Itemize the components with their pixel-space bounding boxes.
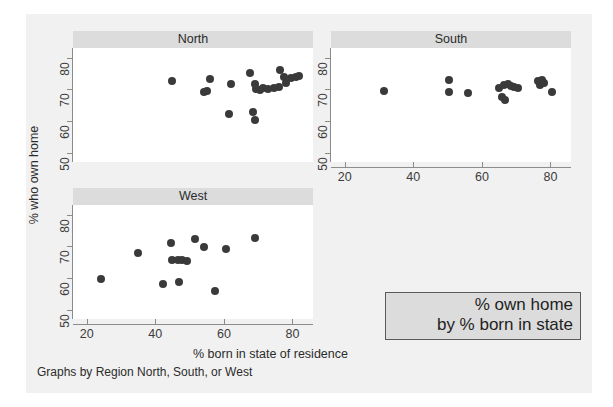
x-axis-title: % born in state of residence	[193, 347, 348, 361]
data-point	[227, 80, 235, 88]
data-point	[168, 77, 176, 85]
y-axis-tick-label-north: 70	[58, 88, 72, 112]
data-point	[167, 239, 175, 247]
data-point	[251, 234, 259, 242]
data-point	[191, 235, 199, 243]
caption-box: % own home by % born in state	[385, 292, 581, 340]
figure-root: North South West 50607080506070802040608…	[0, 0, 613, 407]
data-point	[464, 89, 472, 97]
x-axis-tick-south	[413, 162, 414, 167]
y-axis-tick-label-west: 80	[58, 214, 72, 238]
data-point	[206, 75, 214, 83]
x-axis-tick-label-west: 80	[272, 327, 312, 341]
data-point	[222, 245, 230, 253]
data-point	[251, 116, 259, 124]
data-point	[200, 243, 208, 251]
panel-header-north: North	[73, 31, 313, 48]
y-axis-line-north	[72, 48, 73, 162]
x-axis-tick-label-south: 60	[462, 170, 502, 184]
data-point	[200, 88, 208, 96]
data-point	[211, 287, 219, 295]
x-axis-tick-label-west: 20	[67, 327, 107, 341]
data-point	[183, 257, 191, 265]
data-point	[548, 88, 556, 96]
data-point	[225, 110, 233, 118]
y-axis-line-south	[330, 48, 331, 162]
data-point	[97, 275, 105, 283]
data-point	[540, 79, 548, 87]
y-axis-tick-label-west: 60	[58, 277, 72, 301]
panel-header-west: West	[73, 188, 313, 205]
x-axis-tick-label-south: 40	[393, 170, 433, 184]
x-axis-tick-label-south: 80	[530, 170, 570, 184]
x-axis-tick-south	[482, 162, 483, 167]
caption-line-2: by % born in state	[393, 315, 573, 335]
data-point	[514, 84, 522, 92]
data-point	[134, 249, 142, 257]
y-axis-tick-label-south: 80	[316, 57, 330, 81]
plot-area-west	[73, 205, 313, 319]
y-axis-tick-label-west: 70	[58, 245, 72, 269]
data-point	[159, 280, 167, 288]
y-axis-title: % who own home	[27, 115, 41, 235]
data-point	[295, 72, 303, 80]
y-axis-tick-label-south: 70	[316, 88, 330, 112]
data-point	[445, 76, 453, 84]
plot-area-north	[73, 48, 313, 162]
plot-area-south	[331, 48, 571, 162]
caption-line-1: % own home	[393, 295, 573, 315]
y-axis-tick-label-north: 60	[58, 120, 72, 144]
data-point	[445, 88, 453, 96]
x-axis-tick-south	[550, 162, 551, 167]
x-axis-tick-label-west: 60	[204, 327, 244, 341]
x-axis-tick-label-south: 20	[325, 170, 365, 184]
data-point	[246, 69, 254, 77]
panel-north: North	[73, 31, 313, 162]
data-point	[501, 96, 509, 104]
panel-header-south: South	[331, 31, 571, 48]
x-axis-line-south	[331, 167, 571, 168]
panel-south: South	[331, 31, 571, 162]
x-axis-tick-south	[345, 162, 346, 167]
y-axis-tick-label-north: 80	[58, 57, 72, 81]
x-axis-tick-west	[87, 319, 88, 324]
panel-west: West	[73, 188, 313, 319]
data-point	[175, 278, 183, 286]
data-point	[249, 108, 257, 116]
x-axis-tick-label-west: 40	[135, 327, 175, 341]
y-axis-line-west	[72, 205, 73, 319]
y-axis-tick-label-north: 50	[58, 152, 72, 176]
x-axis-tick-west	[292, 319, 293, 324]
data-point	[380, 87, 388, 95]
x-axis-tick-west	[155, 319, 156, 324]
y-axis-tick-label-south: 60	[316, 120, 330, 144]
graph-note: Graphs by Region North, South, or West	[37, 365, 252, 379]
x-axis-line-west	[73, 324, 313, 325]
x-axis-tick-west	[224, 319, 225, 324]
